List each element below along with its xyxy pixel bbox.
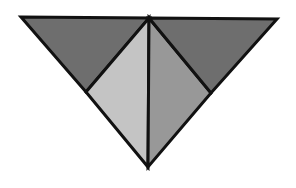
triangle-diagram — [0, 0, 296, 188]
diagram-canvas — [0, 0, 296, 188]
